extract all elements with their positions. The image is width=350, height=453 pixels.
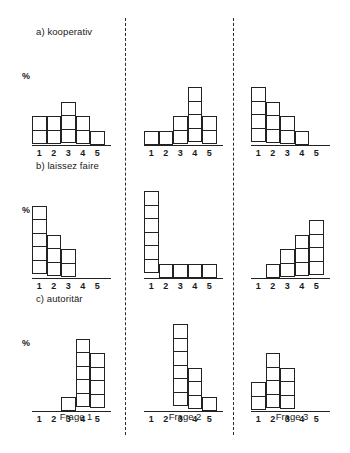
x-axis-line [144, 145, 223, 146]
bar-unit-cell [144, 232, 159, 247]
bar [309, 220, 324, 278]
column-separator-1 [125, 18, 126, 435]
x-axis-tick-label: 2 [266, 148, 281, 158]
bar [144, 131, 159, 146]
chart-kooperativ-frage-1: 12345 [32, 58, 105, 145]
bar-unit-cell [76, 339, 91, 354]
x-axis-tick-label: 2 [159, 148, 174, 158]
bar-unit-cell [76, 379, 91, 394]
bar-unit-cell [309, 247, 324, 262]
bar-unit-cell [309, 261, 324, 276]
bar-unit-cell [144, 259, 159, 274]
x-axis-tick-label: 5 [202, 281, 217, 291]
chart-laissez-faire-frage-1: 12345 [32, 191, 105, 278]
bar-unit-cell [76, 352, 91, 367]
bar-unit-cell [251, 87, 266, 102]
bar-unit-cell [280, 249, 295, 264]
x-axis-tick-labels: 12345 [251, 281, 324, 291]
x-axis-tick-label: 2 [266, 281, 281, 291]
bar-unit-cell [280, 130, 295, 145]
bar-unit-cell [61, 397, 76, 412]
bar-unit-cell [32, 116, 47, 131]
row-label-autoritaer: c) autoritär [36, 293, 83, 304]
y-axis-caption-row-c: % [22, 338, 30, 348]
bar-unit-cell [202, 130, 217, 145]
bar [188, 87, 203, 145]
bar [295, 131, 310, 146]
x-axis-tick-label: 4 [295, 281, 310, 291]
bar-unit-cell [32, 130, 47, 145]
x-axis-line [32, 278, 111, 279]
bar-unit-cell [309, 234, 324, 249]
bar [76, 339, 91, 412]
x-axis-tick-label: 3 [61, 281, 76, 291]
bar-unit-cell [188, 87, 203, 102]
bar-unit-cell [266, 380, 281, 395]
bar [173, 116, 188, 145]
x-axis-tick-label: 1 [32, 281, 47, 291]
bar [159, 264, 174, 279]
bar-unit-cell [251, 396, 266, 411]
x-axis-tick-label: 3 [173, 148, 188, 158]
bar [61, 102, 76, 146]
x-axis-tick-label: 2 [47, 281, 62, 291]
bar [202, 264, 217, 279]
x-axis-tick-label: 3 [61, 148, 76, 158]
bar [202, 397, 217, 412]
bar [202, 116, 217, 145]
bar-unit-cell [61, 102, 76, 117]
bar [159, 131, 174, 146]
bar [76, 116, 91, 145]
bar-unit-cell [266, 367, 281, 382]
bar-unit-cell [173, 365, 188, 380]
plot-area: 12345 [251, 58, 324, 145]
bar-unit-cell [61, 129, 76, 144]
bar-unit-cell [188, 381, 203, 396]
chart-autoritaer-frage-2: 12345 [144, 324, 217, 411]
bar [32, 206, 47, 279]
chart-kooperativ-frage-2: 12345 [144, 58, 217, 145]
bar [266, 264, 281, 279]
chart-autoritaer-frage-3: 12345 [251, 324, 324, 411]
x-axis-tick-label: 3 [280, 281, 295, 291]
bar-unit-cell [266, 264, 281, 279]
plot-area: 12345 [32, 58, 105, 145]
plot-area: 12345 [144, 58, 217, 145]
bar [295, 235, 310, 279]
bar-unit-cell [280, 395, 295, 410]
bar-unit-cell [280, 381, 295, 396]
bar-unit-cell [173, 392, 188, 407]
bar-unit-cell [266, 115, 281, 130]
bar-unit-cell [251, 128, 266, 143]
bar [188, 368, 203, 412]
figure-panel-grid: a) kooperativ b) laissez faire c) autori… [0, 0, 350, 453]
bar-unit-cell [47, 248, 62, 263]
bar [90, 353, 105, 411]
plot-area: 12345 [32, 324, 105, 411]
bar-unit-cell [47, 235, 62, 250]
bar-unit-cell [32, 219, 47, 234]
bar-unit-cell [266, 129, 281, 144]
column-caption-frage-3: Frage 3 [250, 411, 334, 422]
bar-unit-cell [266, 353, 281, 368]
bar-unit-cell [32, 260, 47, 275]
bar-unit-cell [61, 263, 76, 278]
bar-unit-cell [202, 397, 217, 412]
x-axis-tick-labels: 12345 [144, 281, 217, 291]
bar-unit-cell [266, 394, 281, 409]
x-axis-tick-label: 4 [188, 148, 203, 158]
x-axis-tick-label: 1 [144, 148, 159, 158]
bar-unit-cell [202, 116, 217, 131]
chart-laissez-faire-frage-2: 12345 [144, 191, 217, 278]
bar-unit-cell [32, 246, 47, 261]
bar-unit-cell [251, 382, 266, 397]
bar-unit-cell [76, 393, 91, 408]
x-axis-tick-label: 5 [90, 281, 105, 291]
x-axis-tick-label: 4 [188, 281, 203, 291]
bar-unit-cell [309, 220, 324, 235]
x-axis-line [32, 145, 111, 146]
bar [144, 191, 159, 278]
plot-area: 12345 [251, 191, 324, 278]
x-axis-tick-label: 5 [309, 281, 324, 291]
plot-area: 12345 [144, 191, 217, 278]
